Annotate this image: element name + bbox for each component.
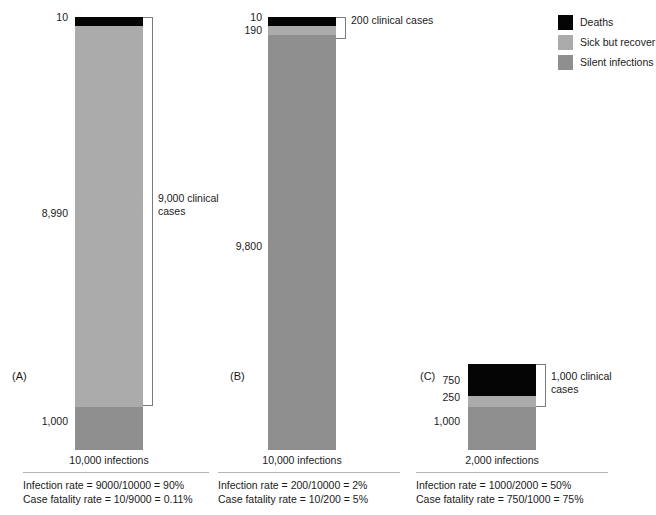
panel-b-segment-sick-but-recover xyxy=(268,26,336,35)
panel-a-formula-box: Infection rate = 9000/10000 = 90% Case f… xyxy=(23,472,209,506)
panel-a: (A) 10 8,990 1,000 9,000 clinical cases … xyxy=(0,0,218,515)
panel-b-case-fatality-rate: Case fatality rate = 10/200 = 5% xyxy=(218,492,400,506)
panel-c-case-fatality-rate: Case fatality rate = 750/1000 = 75% xyxy=(416,492,608,506)
panel-b-axis-label: 10,000 infections xyxy=(232,454,372,466)
panel-c-segment-deaths xyxy=(468,364,536,396)
panel-c-value-deaths: 750 xyxy=(416,374,460,386)
panel-b-value-sick-but-recover: 190 xyxy=(218,24,262,36)
panel-c-formula-box: Infection rate = 1000/2000 = 50% Case fa… xyxy=(416,472,608,506)
panel-c-axis-label: 2,000 infections xyxy=(432,454,572,466)
panel-c-segment-sick-but-recover xyxy=(468,396,536,407)
panel-a-infection-rate: Infection rate = 9000/10000 = 90% xyxy=(23,478,209,492)
panel-b-segment-silent-infections xyxy=(268,35,336,450)
panel-c-bracket-label: 1,000 clinical cases xyxy=(551,370,637,396)
panel-b-segment-deaths xyxy=(268,17,336,26)
panel-a-bar xyxy=(75,17,143,450)
panel-b-bar xyxy=(268,17,336,450)
panel-c: (C) 750 250 1,000 1,000 clinical cases 2… xyxy=(408,0,656,515)
panel-a-segment-silent-infections xyxy=(75,407,143,450)
panel-c-bracket xyxy=(536,364,546,407)
panel-c-value-sick-but-recover: 250 xyxy=(416,391,460,403)
panel-a-value-silent-infections: 1,000 xyxy=(12,415,68,427)
panel-a-case-fatality-rate: Case fatality rate = 10/9000 = 0.11% xyxy=(23,492,209,506)
panel-b: (B) 10 190 9,800 200 clinical cases 10,0… xyxy=(218,0,408,515)
panel-b-tag: (B) xyxy=(230,370,245,382)
panel-a-value-sick-but-recover: 8,990 xyxy=(12,207,68,219)
panel-a-segment-sick-but-recover xyxy=(75,26,143,407)
panel-a-axis-label: 10,000 infections xyxy=(39,454,179,466)
panel-c-segment-silent-infections xyxy=(468,407,536,450)
panel-b-infection-rate: Infection rate = 200/10000 = 2% xyxy=(218,478,400,492)
panel-c-bar xyxy=(468,364,536,450)
panel-b-value-deaths: 10 xyxy=(218,11,262,23)
figure-canvas: Deaths Sick but recover Silent infection… xyxy=(0,0,656,515)
panel-a-value-deaths: 10 xyxy=(22,11,68,23)
panel-a-tag: (A) xyxy=(12,370,27,382)
panel-b-bracket xyxy=(336,17,346,39)
panel-a-bracket xyxy=(143,17,153,406)
panel-c-value-silent-infections: 1,000 xyxy=(408,415,460,427)
panel-c-infection-rate: Infection rate = 1000/2000 = 50% xyxy=(416,478,608,492)
panel-b-formula-box: Infection rate = 200/10000 = 2% Case fat… xyxy=(218,472,400,506)
panel-b-value-silent-infections: 9,800 xyxy=(218,240,262,252)
panel-a-segment-deaths xyxy=(75,17,143,26)
